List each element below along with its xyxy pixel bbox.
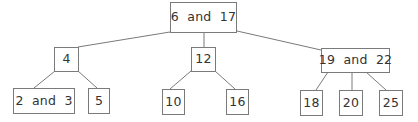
node-4: 4 [54,47,79,72]
edge-root-19-22 [237,31,321,50]
tree-diagram: 6 and 17 4 12 19 and 22 2 and 3 5 10 16 … [0,0,418,122]
node-20: 20 [339,90,363,116]
edge-12-16 [215,71,235,89]
edge-12-10 [170,71,191,89]
node-root: 6 and 17 [170,2,237,33]
edge-19-22-18 [316,72,328,90]
node-25: 25 [379,90,403,116]
edge-4-5 [78,71,97,88]
node-2-and-3: 2 and 3 [13,88,75,114]
node-19-and-22: 19 and 22 [321,48,390,73]
edge-4-2-3 [34,71,55,88]
node-10: 10 [162,89,185,115]
edge-root-4 [78,32,170,47]
edge-19-22-25 [366,72,386,90]
node-5: 5 [88,88,110,114]
node-16: 16 [226,89,249,115]
node-18: 18 [300,90,323,116]
node-12: 12 [191,47,216,72]
